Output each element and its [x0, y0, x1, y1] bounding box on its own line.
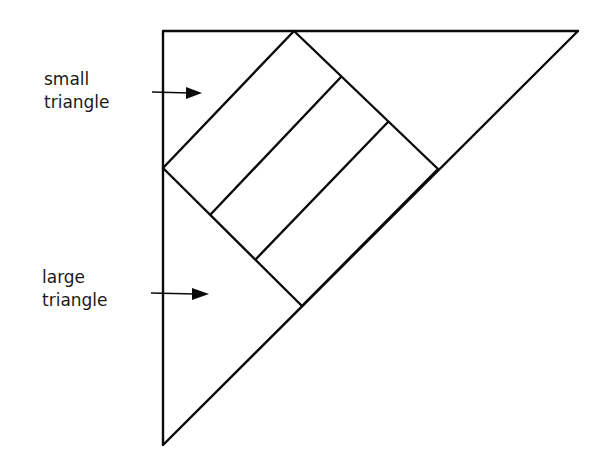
large-triangle-label: large triangle [42, 266, 108, 312]
small-triangle-label-line1: small [44, 68, 110, 91]
inscribed-rectangle [163, 31, 438, 306]
small-triangle-label-line2: triangle [44, 91, 110, 114]
arrowhead-icon [192, 288, 209, 300]
small-triangle-arrow [152, 87, 202, 99]
large-triangle-label-line2: triangle [42, 289, 108, 312]
large-triangle-arrow [151, 288, 209, 300]
small-triangle-label: small triangle [44, 68, 110, 114]
large-triangle-label-line1: large [42, 266, 108, 289]
arrowhead-icon [186, 87, 202, 99]
